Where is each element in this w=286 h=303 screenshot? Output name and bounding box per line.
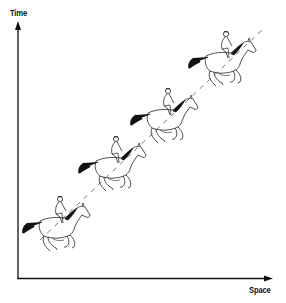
diagram-canvas bbox=[0, 0, 286, 303]
y-axis-arrow-icon bbox=[15, 21, 21, 30]
worldline bbox=[40, 30, 262, 240]
horse-and-rider-1 bbox=[23, 196, 90, 251]
space-time-diagram: Time Space bbox=[0, 0, 286, 303]
horse-and-rider-3 bbox=[131, 88, 198, 143]
y-axis-label: Time bbox=[10, 8, 27, 18]
horse-and-rider-4 bbox=[189, 31, 256, 86]
horse-and-rider-2 bbox=[79, 136, 146, 191]
x-axis-label: Space bbox=[249, 285, 271, 295]
x-axis-arrow-icon bbox=[264, 276, 273, 282]
